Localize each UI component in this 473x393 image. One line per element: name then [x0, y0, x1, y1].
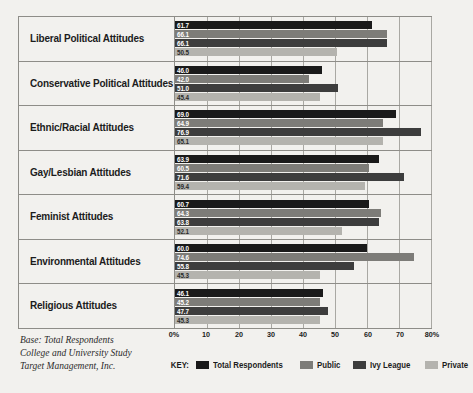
bar-group: 63.960.571.659.4 [175, 154, 431, 192]
bar-ivy-league: 47.7 [175, 307, 328, 315]
plot-area: 63.960.571.659.4 [175, 151, 431, 195]
legend-swatch [300, 361, 313, 369]
bar-value-label: 45.2 [177, 298, 189, 305]
bar-value-label: 42.0 [177, 75, 189, 82]
bar-value-label: 52.1 [177, 227, 189, 234]
bar-row: 66.1 [175, 39, 431, 47]
chart-group-row: Conservative Political Attitudes46.042.0… [19, 62, 431, 107]
bar-value-label: 60.7 [177, 200, 189, 207]
plot-area: 60.764.363.852.1 [175, 195, 431, 239]
bar-value-label: 64.3 [177, 209, 189, 216]
bar-row: 42.0 [175, 75, 431, 83]
bar-group: 60.074.655.845.3 [175, 243, 431, 281]
bar-private: 45.3 [175, 316, 320, 324]
bar-row: 46.0 [175, 66, 431, 74]
bar-public: 42.0 [175, 75, 309, 83]
bar-total-respondents: 60.7 [175, 200, 369, 208]
bar-ivy-league: 66.1 [175, 39, 387, 47]
bar-row: 60.7 [175, 200, 431, 208]
bar-row: 74.6 [175, 253, 431, 261]
legend-label: Private [442, 360, 468, 370]
bar-public: 66.1 [175, 30, 387, 38]
bar-private: 65.1 [175, 137, 383, 145]
bar-value-label: 64.9 [177, 120, 189, 127]
bar-group: 46.042.051.045.4 [175, 65, 431, 103]
category-label-cell: Ethnic/Racial Attitudes [19, 106, 175, 150]
plot-area: 60.074.655.845.3 [175, 240, 431, 284]
chart-footnote: Base: Total Respondents College and Univ… [20, 334, 132, 372]
category-label: Gay/Lesbian Attitudes [30, 167, 131, 179]
bar-value-label: 45.4 [177, 93, 189, 100]
bar-private: 45.3 [175, 271, 320, 279]
chart-group-row: Liberal Political Attitudes61.766.166.15… [19, 17, 431, 62]
bar-total-respondents: 69.0 [175, 110, 396, 118]
bar-value-label: 69.0 [177, 111, 189, 118]
bar-group: 60.764.363.852.1 [175, 198, 431, 236]
bar-ivy-league: 63.8 [175, 218, 379, 226]
category-label-cell: Conservative Political Attitudes [19, 62, 175, 106]
bar-row: 63.9 [175, 155, 431, 163]
category-label-cell: Religious Attitudes [19, 284, 175, 328]
chart-group-row: Ethnic/Racial Attitudes69.064.976.965.1 [19, 106, 431, 151]
bar-value-label: 66.1 [177, 31, 189, 38]
bar-private: 59.4 [175, 182, 365, 190]
category-label-cell: Feminist Attitudes [19, 195, 175, 239]
legend-label: Ivy League [370, 360, 410, 370]
bar-row: 65.1 [175, 137, 431, 145]
bar-value-label: 60.0 [177, 245, 189, 252]
bar-row: 45.3 [175, 316, 431, 324]
x-axis-tick: 80% [425, 330, 439, 339]
bar-row: 66.1 [175, 30, 431, 38]
plot-area: 69.064.976.965.1 [175, 106, 431, 150]
bar-value-label: 74.6 [177, 254, 189, 261]
bar-ivy-league: 55.8 [175, 262, 354, 270]
bar-public: 74.6 [175, 253, 414, 261]
x-axis: 0%1020304050607080% [174, 330, 432, 343]
bar-row: 46.1 [175, 289, 431, 297]
bar-row: 71.6 [175, 173, 431, 181]
category-label-cell: Gay/Lesbian Attitudes [19, 151, 175, 195]
bar-row: 45.2 [175, 298, 431, 306]
chart-group-row: Environmental Attitudes60.074.655.845.3 [19, 240, 431, 285]
legend-item: Public [300, 360, 343, 370]
legend-key-label: KEY: [171, 360, 189, 370]
bar-row: 76.9 [175, 128, 431, 136]
bar-row: 64.3 [175, 209, 431, 217]
x-axis-tick: 70 [396, 330, 404, 339]
chart-legend: KEY: Total RespondentsPublicIvy LeaguePr… [170, 360, 473, 370]
plot-area: 46.145.247.745.3 [175, 284, 431, 328]
category-label-cell: Environmental Attitudes [19, 240, 175, 284]
x-axis-tick: 60 [363, 330, 371, 339]
bar-private: 50.5 [175, 48, 337, 56]
bar-chart: Liberal Political Attitudes61.766.166.15… [18, 16, 432, 329]
bar-value-label: 50.5 [177, 49, 189, 56]
legend-swatch [196, 361, 209, 369]
bar-value-label: 71.6 [177, 174, 189, 181]
footnote-line-1: Base: Total Respondents [20, 334, 132, 347]
bar-private: 52.1 [175, 227, 342, 235]
bar-total-respondents: 63.9 [175, 155, 379, 163]
category-label: Conservative Political Attitudes [30, 78, 173, 90]
legend-item: Ivy League [353, 360, 414, 370]
x-axis-tick: 30 [267, 330, 275, 339]
bar-row: 47.7 [175, 307, 431, 315]
bar-row: 51.0 [175, 84, 431, 92]
footnote-line-2: College and University Study [20, 347, 132, 360]
chart-group-row: Gay/Lesbian Attitudes63.960.571.659.4 [19, 151, 431, 196]
legend-item: Private [425, 360, 470, 370]
bar-value-label: 59.4 [177, 183, 189, 190]
plot-area: 61.766.166.150.5 [175, 17, 431, 61]
legend-label: Public [317, 360, 340, 370]
bar-public: 64.3 [175, 209, 381, 217]
footnote-line-3: Target Management, Inc. [20, 360, 132, 373]
x-axis-tick: 0% [169, 330, 179, 339]
category-label: Environmental Attitudes [30, 256, 141, 268]
bar-value-label: 45.3 [177, 272, 189, 279]
bar-row: 60.0 [175, 244, 431, 252]
plot-area: 46.042.051.045.4 [175, 62, 431, 106]
chart-group-row: Feminist Attitudes60.764.363.852.1 [19, 195, 431, 240]
bar-public: 45.2 [175, 298, 320, 306]
bar-row: 59.4 [175, 182, 431, 190]
legend-swatch [353, 361, 366, 369]
chart-group-row: Religious Attitudes46.145.247.745.3 [19, 284, 431, 328]
